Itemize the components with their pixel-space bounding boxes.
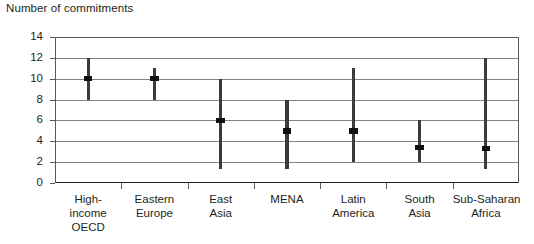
x-axis-label-line: Europe [121, 206, 187, 220]
y-axis-tick-label: 12 [21, 52, 43, 64]
y-axis-tick-label: 0 [21, 177, 43, 189]
x-axis-label-line: OECD [55, 220, 121, 234]
y-axis-tick-label: 6 [21, 114, 43, 126]
x-axis-label: Sub-SaharanAfrica [453, 192, 519, 220]
x-axis-ticks [55, 183, 519, 190]
plot-area [55, 37, 519, 183]
x-tick [453, 183, 454, 189]
x-tick [121, 183, 122, 189]
x-tick [320, 183, 321, 189]
y-axis-title: Number of commitments [6, 2, 133, 14]
x-axis-label-line: Asia [386, 206, 452, 220]
x-axis-label-line: South [386, 192, 452, 206]
x-axis-label: EasternEurope [121, 192, 187, 220]
x-tick [254, 183, 255, 189]
y-axis-tick-label: 8 [21, 94, 43, 106]
x-axis-label: SouthAsia [386, 192, 452, 220]
x-axis-label-line: Latin [320, 192, 386, 206]
x-axis-label: MENA [254, 192, 320, 206]
x-axis-label-line: income [55, 206, 121, 220]
x-axis-label: High-incomeOECD [55, 192, 121, 235]
plot-frame [55, 37, 519, 183]
x-axis-label-line: America [320, 206, 386, 220]
x-axis-label-line: Sub-Saharan [453, 192, 519, 206]
x-axis-label-line: East [188, 192, 254, 206]
x-axis-label-line: Asia [188, 206, 254, 220]
x-tick [188, 183, 189, 189]
x-axis-label: EastAsia [188, 192, 254, 220]
y-axis-tick-label: 10 [21, 73, 43, 85]
x-axis-labels: High-incomeOECDEasternEuropeEastAsiaMENA… [55, 192, 519, 244]
x-axis-label-line: Eastern [121, 192, 187, 206]
x-axis-label-line: Africa [453, 206, 519, 220]
x-axis-label-line: High- [55, 192, 121, 206]
y-axis-tick-label: 14 [21, 31, 43, 43]
x-axis-label: LatinAmerica [320, 192, 386, 220]
y-axis-tick-label: 4 [21, 135, 43, 147]
chart-figure: Number of commitments 02468101214 High-i… [0, 0, 534, 244]
x-tick [386, 183, 387, 189]
y-axis-tick-label: 2 [21, 156, 43, 168]
x-axis-label-line: MENA [254, 192, 320, 206]
